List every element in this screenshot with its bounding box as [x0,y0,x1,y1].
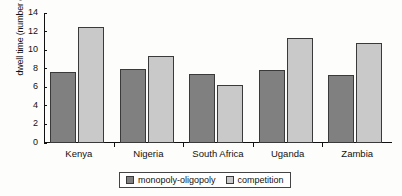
y-tick-label: 4 [33,100,38,111]
bar-zambia-competition [356,43,382,143]
bar-group-kenya [44,13,114,143]
bar-kenya-monopoly-oligopoly [50,72,76,143]
bar-group-nigeria [114,13,184,143]
x-axis-label-kenya: Kenya [44,148,114,159]
y-tick-label: 0 [33,137,38,148]
x-axis-label-uganda: Uganda [253,148,323,159]
bar-kenya-competition [78,27,104,143]
y-axis-title: dwell time (number of days) [15,0,25,93]
bar-chart: dwell time (number of days) 02468101214 … [0,0,402,196]
legend-swatch-monopoly-oligopoly [126,176,134,184]
legend-label: competition [238,175,284,185]
bar-south-africa-monopoly-oligopoly [189,74,215,143]
y-tick-label: 10 [28,44,38,55]
y-tick-label: 12 [28,26,38,37]
x-axis-separator [114,143,115,147]
bar-nigeria-competition [148,56,174,143]
y-tick-label: 6 [33,81,38,92]
bar-south-africa-competition [217,85,243,143]
legend-label: monopoly-oligopoly [138,175,216,185]
legend-item-monopoly-oligopoly[interactable]: monopoly-oligopoly [126,175,216,185]
bar-group-zambia [322,13,392,143]
legend-swatch-competition [226,176,234,184]
plot-area: 02468101214 [44,13,392,143]
y-tick-label: 8 [33,63,38,74]
bar-group-south-africa [183,13,253,143]
x-axis-separator [253,143,254,147]
bar-group-uganda [253,13,323,143]
x-axis-label-zambia: Zambia [322,148,392,159]
bar-zambia-monopoly-oligopoly [328,75,354,143]
legend-item-competition[interactable]: competition [226,175,284,185]
bar-uganda-monopoly-oligopoly [259,70,285,143]
y-tick-label: 14 [28,7,38,18]
bar-nigeria-monopoly-oligopoly [120,69,146,143]
x-axis-label-nigeria: Nigeria [114,148,184,159]
x-axis-separator [322,143,323,147]
x-axis-label-south-africa: South Africa [183,148,253,159]
bar-uganda-competition [287,38,313,143]
chart-legend: monopoly-oligopolycompetition [119,172,291,188]
x-axis-separator [183,143,184,147]
y-tick-label: 2 [33,118,38,129]
